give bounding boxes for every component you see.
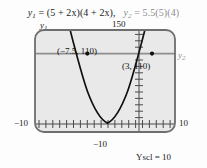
point-label-right: (3, 110) <box>122 61 150 71</box>
axis-label-xmin: −10 <box>14 118 28 128</box>
axis-label-ymax: 150 <box>112 19 126 29</box>
point-label-left: (−7.5, 110) <box>57 46 97 56</box>
equation-y1: y1 = (5 + 2x)(4 + 2x), <box>28 7 116 18</box>
plot-canvas <box>34 29 176 133</box>
equation-y2-subscript: 2 <box>128 12 132 20</box>
curve-y1-parabola <box>68 29 147 123</box>
equation-caption: y1 = (5 + 2x)(4 + 2x), y2 = 5.5(5)(4) <box>0 7 207 20</box>
curve-label-y2-subscript: 2 <box>182 54 186 62</box>
calculator-screen <box>35 30 175 132</box>
equation-y2: y2 = 5.5(5)(4) <box>123 7 179 18</box>
curve-label-y2: y2 <box>178 50 186 62</box>
equation-y1-subscript: 1 <box>32 12 36 20</box>
yscl-label: Yscl = 10 <box>136 152 171 162</box>
equation-y1-expression: = (5 + 2x)(4 + 2x), <box>38 7 115 18</box>
intersection-point-right <box>150 52 154 56</box>
screen-bezel <box>35 30 175 132</box>
axis-label-ymin: −10 <box>93 139 107 149</box>
graphing-calculator-figure: y1 = (5 + 2x)(4 + 2x), y2 = 5.5(5)(4) y1… <box>0 0 207 168</box>
equation-y2-expression: = 5.5(5)(4) <box>134 7 179 18</box>
axis-label-xmax: 10 <box>179 118 188 128</box>
